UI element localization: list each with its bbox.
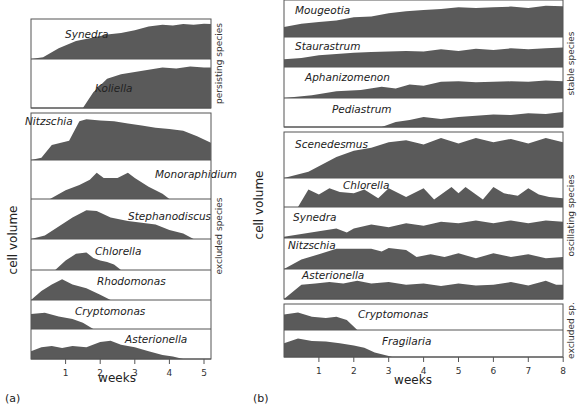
group-label: excluded species xyxy=(214,197,224,274)
x-axis-label: weeks xyxy=(394,373,432,387)
species-label: Monoraphidium xyxy=(155,168,237,180)
x-tick-label: 5 xyxy=(456,366,462,376)
y-axis-label: cell volume xyxy=(6,206,20,275)
species-label: Pediastrum xyxy=(332,103,392,115)
group-label: stable species xyxy=(566,31,576,95)
figure-canvas: SynedraKoliellapersisting speciesNitzsch… xyxy=(0,0,585,409)
species-label: Cryptomonas xyxy=(358,308,429,320)
group-label: excluded sp. xyxy=(566,302,576,359)
species-label: Cryptomonas xyxy=(75,305,146,317)
species-label: Fragilaria xyxy=(382,335,431,347)
species-label: Synedra xyxy=(293,211,336,223)
x-tick-label: 7 xyxy=(525,366,531,376)
species-label: Asterionella xyxy=(124,333,187,345)
area-synedra xyxy=(284,220,563,238)
species-label: Staurastrum xyxy=(295,40,360,52)
species-label: Aphanizomenon xyxy=(304,71,390,83)
x-tick-label: 1 xyxy=(316,366,322,376)
species-label: Chlorella xyxy=(343,179,389,191)
group-persisting-species: SynedraKoliellapersisting species xyxy=(31,19,224,108)
area-monoraphidium xyxy=(31,173,169,199)
area-aphanizomenon xyxy=(284,81,563,99)
species-label: Stephanodiscus xyxy=(128,210,212,222)
species-label: Nitzschia xyxy=(288,239,336,251)
area-fragilaria xyxy=(284,339,392,357)
area-nitzschia xyxy=(284,248,563,269)
panel-label: (a) xyxy=(5,392,20,405)
x-tick-label: 6 xyxy=(491,366,497,376)
x-tick-label: 4 xyxy=(167,368,173,378)
area-chlorella xyxy=(284,187,563,207)
area-asterionella xyxy=(284,281,563,299)
x-tick-label: 8 xyxy=(560,366,566,376)
x-tick-label: 2 xyxy=(351,366,357,376)
group-label: persisting species xyxy=(214,23,224,104)
x-axis-label: weeks xyxy=(98,371,136,385)
panel-a: SynedraKoliellapersisting speciesNitzsch… xyxy=(5,19,237,405)
species-label: Chlorella xyxy=(95,245,141,257)
group-stable-species: MougeotiaStaurastrumAphanizomenonPediast… xyxy=(284,0,576,127)
species-label: Scenedesmus xyxy=(295,138,368,150)
group-excluded-sp: CryptomonasFragilariaexcluded sp. xyxy=(284,302,576,359)
area-pediastrum xyxy=(284,112,563,127)
y-axis-label: cell volume xyxy=(252,171,266,240)
panel-label: (b) xyxy=(253,392,269,405)
species-label: Mougeotia xyxy=(295,4,350,16)
species-label: Koliella xyxy=(95,82,133,94)
species-label: Synedra xyxy=(65,28,108,40)
area-synedra xyxy=(31,24,211,59)
species-label: Asterionella xyxy=(301,269,364,281)
area-cryptomonas xyxy=(284,312,357,330)
x-tick-label: 5 xyxy=(201,368,207,378)
x-tick-label: 1 xyxy=(63,368,69,378)
species-label: Rhodomonas xyxy=(97,275,166,287)
group-label: oscillating species xyxy=(566,174,576,256)
panel-b: MougeotiaStaurastrumAphanizomenonPediast… xyxy=(252,0,576,405)
group-excluded-species: NitzschiaMonoraphidiumStephanodiscusChlo… xyxy=(25,113,237,359)
x-tick-label: 3 xyxy=(386,366,392,376)
species-label: Nitzschia xyxy=(25,115,73,127)
group-oscillating-species: ScenedesmusChlorellaSynedraNitzschiaAste… xyxy=(284,132,576,299)
